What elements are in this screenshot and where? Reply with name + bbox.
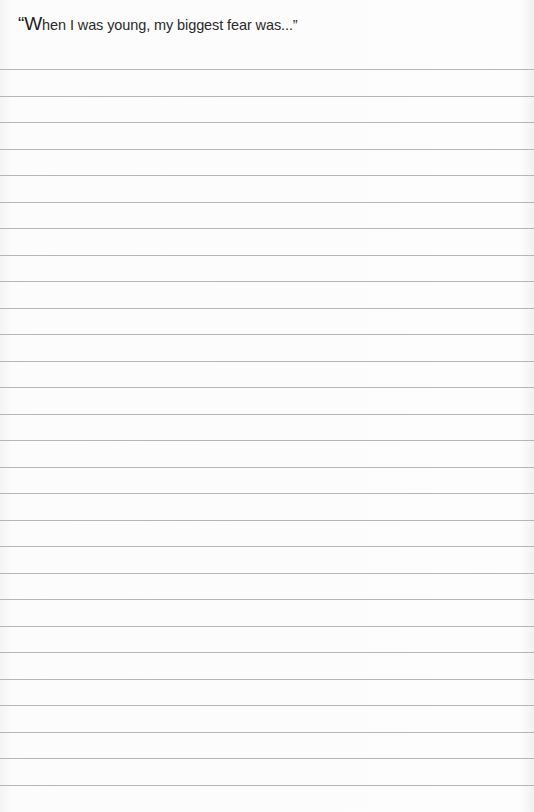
- ruled-line: [0, 440, 534, 441]
- ruled-line: [0, 785, 534, 786]
- ruled-line: [0, 467, 534, 468]
- ruled-line: [0, 334, 534, 335]
- ruled-line: [0, 652, 534, 653]
- ruled-line: [0, 679, 534, 680]
- ruled-line: [0, 546, 534, 547]
- ruled-line: [0, 705, 534, 706]
- ruled-line: [0, 732, 534, 733]
- ruled-line: [0, 175, 534, 176]
- ruled-line: [0, 228, 534, 229]
- lined-paper-page: “When I was young, my biggest fear was..…: [0, 0, 534, 812]
- ruled-line: [0, 202, 534, 203]
- ruled-lines: [0, 0, 534, 812]
- ruled-line: [0, 308, 534, 309]
- ruled-line: [0, 758, 534, 759]
- ruled-line: [0, 149, 534, 150]
- ruled-line: [0, 361, 534, 362]
- ruled-line: [0, 69, 534, 70]
- ruled-line: [0, 493, 534, 494]
- ruled-line: [0, 122, 534, 123]
- ruled-line: [0, 599, 534, 600]
- ruled-line: [0, 255, 534, 256]
- ruled-line: [0, 387, 534, 388]
- ruled-line: [0, 281, 534, 282]
- ruled-line: [0, 520, 534, 521]
- ruled-line: [0, 414, 534, 415]
- ruled-line: [0, 573, 534, 574]
- ruled-line: [0, 626, 534, 627]
- ruled-line: [0, 96, 534, 97]
